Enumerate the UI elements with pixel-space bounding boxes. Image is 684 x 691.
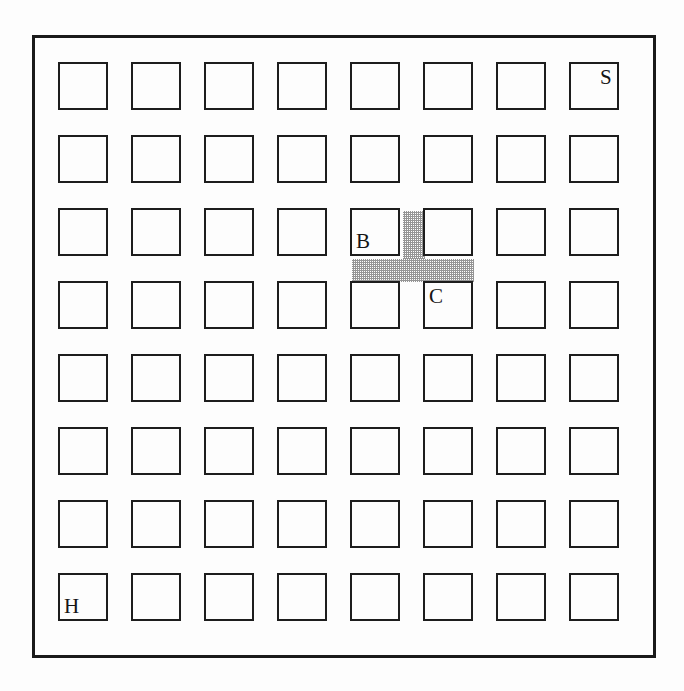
grid-cell-r7c2[interactable]: [131, 500, 181, 548]
grid-cell-r5c6[interactable]: [423, 354, 473, 402]
grid-cell-r3c1[interactable]: [58, 208, 108, 256]
grid-cell-r7c1[interactable]: [58, 500, 108, 548]
grid-plane: SBCH: [0, 0, 684, 691]
grid-cell-r8c1[interactable]: H: [58, 573, 108, 621]
grid-cell-r7c8[interactable]: [569, 500, 619, 548]
grid-cell-r6c1[interactable]: [58, 427, 108, 475]
grid-cell-r6c5[interactable]: [350, 427, 400, 475]
grid-cell-r5c4[interactable]: [277, 354, 327, 402]
grid-cell-r3c8[interactable]: [569, 208, 619, 256]
cell-label-c: C: [429, 286, 443, 307]
grid-cell-r5c5[interactable]: [350, 354, 400, 402]
grid-cell-r7c6[interactable]: [423, 500, 473, 548]
grid-cell-r6c7[interactable]: [496, 427, 546, 475]
grid-cell-r6c3[interactable]: [204, 427, 254, 475]
grid-cell-r8c8[interactable]: [569, 573, 619, 621]
grid-cell-r7c3[interactable]: [204, 500, 254, 548]
grid-cell-r3c2[interactable]: [131, 208, 181, 256]
grid-cell-r6c6[interactable]: [423, 427, 473, 475]
grid-cell-r8c2[interactable]: [131, 573, 181, 621]
grid-cell-r1c7[interactable]: [496, 62, 546, 110]
grid-cell-r5c1[interactable]: [58, 354, 108, 402]
grid-cell-r3c7[interactable]: [496, 208, 546, 256]
grid-cell-r5c8[interactable]: [569, 354, 619, 402]
cell-label-h: H: [64, 596, 79, 617]
corridor-horizontal: [352, 259, 474, 282]
grid-cell-r2c8[interactable]: [569, 135, 619, 183]
grid-cell-r8c4[interactable]: [277, 573, 327, 621]
grid-cell-r8c3[interactable]: [204, 573, 254, 621]
grid-cell-r2c5[interactable]: [350, 135, 400, 183]
cell-label-s: S: [600, 67, 612, 88]
grid-cell-r1c3[interactable]: [204, 62, 254, 110]
grid-cell-r1c2[interactable]: [131, 62, 181, 110]
grid-cell-r7c5[interactable]: [350, 500, 400, 548]
grid-cell-r5c7[interactable]: [496, 354, 546, 402]
grid-cell-r8c7[interactable]: [496, 573, 546, 621]
grid-cell-r4c4[interactable]: [277, 281, 327, 329]
grid-cell-r6c4[interactable]: [277, 427, 327, 475]
grid-cell-r2c7[interactable]: [496, 135, 546, 183]
grid-cell-r4c1[interactable]: [58, 281, 108, 329]
grid-cell-r4c8[interactable]: [569, 281, 619, 329]
grid-cell-r1c4[interactable]: [277, 62, 327, 110]
grid-cell-r7c4[interactable]: [277, 500, 327, 548]
figure-root: SBCH: [0, 0, 684, 691]
grid-cell-r3c4[interactable]: [277, 208, 327, 256]
grid-cell-r1c5[interactable]: [350, 62, 400, 110]
grid-cell-r2c6[interactable]: [423, 135, 473, 183]
grid-cell-r4c6[interactable]: C: [423, 281, 473, 329]
grid-cell-r3c3[interactable]: [204, 208, 254, 256]
grid-cell-r4c3[interactable]: [204, 281, 254, 329]
grid-cell-r5c2[interactable]: [131, 354, 181, 402]
corridor-vertical: [403, 211, 425, 259]
grid-cell-r5c3[interactable]: [204, 354, 254, 402]
grid-cell-r4c7[interactable]: [496, 281, 546, 329]
grid-cell-r8c5[interactable]: [350, 573, 400, 621]
grid-cell-r1c1[interactable]: [58, 62, 108, 110]
grid-cell-r4c2[interactable]: [131, 281, 181, 329]
grid-cell-r2c3[interactable]: [204, 135, 254, 183]
grid-cell-r2c1[interactable]: [58, 135, 108, 183]
grid-cell-r1c8[interactable]: S: [569, 62, 619, 110]
grid-cell-r6c8[interactable]: [569, 427, 619, 475]
grid-cell-r4c5[interactable]: [350, 281, 400, 329]
grid-cell-r2c4[interactable]: [277, 135, 327, 183]
grid-cell-r3c5[interactable]: B: [350, 208, 400, 256]
grid-cell-r2c2[interactable]: [131, 135, 181, 183]
grid-cell-r8c6[interactable]: [423, 573, 473, 621]
grid-cell-r7c7[interactable]: [496, 500, 546, 548]
grid-cell-r1c6[interactable]: [423, 62, 473, 110]
grid-cell-r6c2[interactable]: [131, 427, 181, 475]
cell-label-b: B: [356, 231, 370, 252]
grid-cell-r3c6[interactable]: [423, 208, 473, 256]
